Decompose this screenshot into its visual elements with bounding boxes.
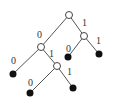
internal-node	[54, 63, 61, 70]
internal-node	[66, 12, 73, 19]
edge-label: 0	[37, 29, 42, 40]
edge-label: 1	[82, 17, 87, 28]
edge-label: 0	[11, 55, 16, 66]
internal-node	[81, 33, 88, 40]
binary-tree-diagram: 01010101	[0, 0, 113, 105]
internal-node	[38, 44, 45, 51]
edge-label: 1	[49, 48, 54, 59]
leaf-node	[65, 54, 72, 61]
leaf-node	[96, 51, 103, 58]
tree-edge	[41, 15, 69, 47]
edge-label: 0	[28, 77, 33, 88]
leaf-node	[27, 90, 34, 97]
edge-label: 1	[67, 66, 72, 77]
leaf-node	[70, 85, 77, 92]
edge-label: 0	[66, 43, 71, 54]
edge-label: 1	[96, 35, 101, 46]
tree-edge	[30, 66, 57, 93]
tree-edge	[13, 47, 41, 74]
leaf-node	[10, 71, 17, 78]
